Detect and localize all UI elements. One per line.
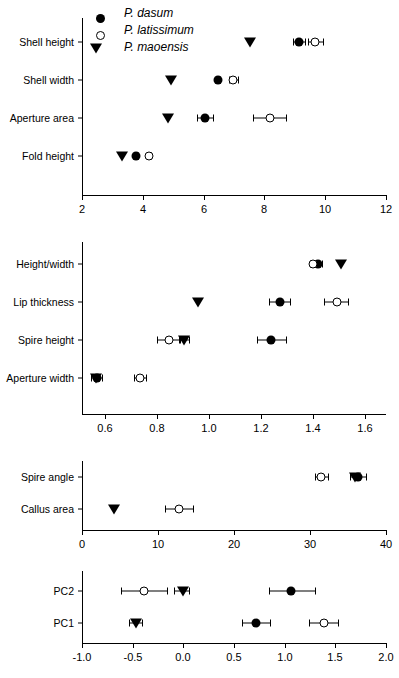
x-tick-label: 6 — [201, 203, 207, 215]
error-bar-cap — [366, 474, 367, 481]
y-tick — [78, 340, 83, 341]
error-bar-cap — [167, 588, 168, 595]
x-tick — [82, 195, 83, 200]
data-point-open-circle — [229, 76, 238, 85]
data-point-open-circle — [145, 152, 154, 161]
y-tick — [78, 591, 83, 592]
row-label-shell-width: Shell width — [23, 75, 74, 86]
data-point-filled-triangle — [335, 260, 347, 270]
error-bar-cap — [193, 506, 194, 513]
legend-item-label: P. latissimum — [124, 23, 194, 37]
y-tick — [78, 477, 83, 478]
error-bar-cap — [315, 474, 316, 481]
error-bar-cap — [269, 299, 270, 306]
x-tick-label: 40 — [380, 538, 392, 550]
y-tick — [78, 80, 83, 81]
y-tick — [78, 42, 83, 43]
data-point-open-circle — [139, 587, 148, 596]
data-point-filled-triangle — [165, 76, 177, 86]
x-tick-label: 20 — [228, 538, 240, 550]
x-axis-line — [82, 414, 386, 415]
error-bar-cap — [324, 299, 325, 306]
error-bar-cap — [348, 299, 349, 306]
data-point-filled-triangle — [116, 152, 128, 162]
data-point-filled-triangle — [90, 374, 102, 384]
row-label-aperture-area: Aperture area — [10, 113, 74, 124]
filled-circle-icon — [96, 14, 105, 23]
x-tick — [143, 195, 144, 200]
y-tick — [78, 264, 83, 265]
data-point-open-circle — [265, 114, 274, 123]
x-tick — [264, 195, 265, 200]
panel-4-plot-area: -1.0-0.50.00.51.01.52.0PC2PC1 — [0, 565, 399, 678]
x-tick — [183, 643, 184, 648]
x-tick — [209, 414, 210, 419]
error-bar-cap — [146, 375, 147, 382]
x-tick — [325, 195, 326, 200]
error-bar-cap — [338, 620, 339, 627]
row-label-pc1: PC1 — [54, 618, 74, 629]
x-tick — [204, 195, 205, 200]
row-label-pc2: PC2 — [54, 586, 74, 597]
data-point-filled-triangle — [244, 38, 256, 48]
data-point-open-circle — [320, 619, 329, 628]
x-tick — [386, 195, 387, 200]
error-bar-cap — [189, 588, 190, 595]
panel-1-plot-area: 24681012Shell heightShell widthAperture … — [0, 0, 399, 230]
data-point-filled-circle — [132, 152, 141, 161]
y-tick — [78, 623, 83, 624]
x-tick-label: -0.5 — [124, 651, 143, 663]
row-label-shell-height: Shell height — [19, 37, 74, 48]
error-bar-cap — [213, 115, 214, 122]
panel-3-plot-area: 010203040Spire angleCallus area — [0, 455, 399, 555]
row-label-aperture-width: Aperture width — [6, 373, 74, 384]
x-tick-label: 2.0 — [378, 651, 393, 663]
row-label-fold-height: Fold height — [22, 151, 74, 162]
x-tick — [386, 643, 387, 648]
y-axis-line — [82, 461, 83, 530]
data-point-filled-triangle — [349, 473, 361, 483]
x-tick-label: 1.0 — [277, 651, 292, 663]
x-tick — [157, 414, 158, 419]
error-bar-cap — [174, 588, 175, 595]
data-point-open-circle — [332, 298, 341, 307]
error-bar-cap — [253, 115, 254, 122]
error-bar-cap — [165, 506, 166, 513]
error-bar-cap — [197, 115, 198, 122]
y-axis-line — [82, 571, 83, 643]
x-tick-label: 1.4 — [305, 422, 320, 434]
x-tick — [285, 643, 286, 648]
x-tick-label: 1.2 — [253, 422, 268, 434]
y-axis-line — [82, 242, 83, 414]
x-tick-label: 2 — [79, 203, 85, 215]
data-point-filled-circle — [267, 336, 276, 345]
filled-triangle-icon — [90, 44, 102, 54]
data-point-open-circle — [175, 505, 184, 514]
panel-angle-area-measurements: 010203040Spire angleCallus area — [0, 455, 399, 555]
x-tick — [158, 530, 159, 535]
data-point-open-circle — [135, 374, 144, 383]
x-tick-label: 4 — [140, 203, 146, 215]
x-tick-label: 30 — [304, 538, 316, 550]
panel-principal-components: -1.0-0.50.00.51.01.52.0PC2PC1 — [0, 565, 399, 678]
x-tick-label: 0.5 — [226, 651, 241, 663]
data-point-filled-triangle — [162, 114, 174, 124]
x-tick-label: 0.8 — [149, 422, 164, 434]
x-tick-label: 10 — [152, 538, 164, 550]
open-circle-icon — [96, 31, 105, 40]
x-tick — [82, 530, 83, 535]
x-tick-label: 0 — [79, 538, 85, 550]
x-tick — [234, 643, 235, 648]
error-bar-cap — [309, 620, 310, 627]
row-label-spire-angle: Spire angle — [21, 472, 74, 483]
error-bar-cap — [269, 588, 270, 595]
legend-item-label: P. dasum — [124, 6, 173, 20]
x-tick — [335, 643, 336, 648]
panel-2-plot-area: 0.60.81.01.21.41.6Height/widthLip thickn… — [0, 232, 399, 444]
x-tick — [313, 414, 314, 419]
x-tick-label: 12 — [380, 203, 392, 215]
error-bar-cap — [290, 299, 291, 306]
x-tick — [234, 530, 235, 535]
x-tick-label: 1.5 — [327, 651, 342, 663]
panel-ratio-measurements: 0.60.81.01.21.41.6Height/widthLip thickn… — [0, 232, 399, 444]
